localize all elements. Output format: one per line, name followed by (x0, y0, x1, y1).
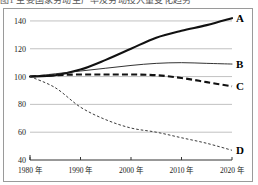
chart-plot-area: 406080100120140 1980 年1990 年2000 年2010 年… (0, 0, 258, 185)
series-label-d: D (236, 144, 244, 156)
series-label-c: C (236, 80, 244, 92)
ytick-label-60: 60 (18, 128, 26, 137)
ytick-label-40: 40 (18, 156, 26, 165)
ytick-label-100: 100 (14, 73, 26, 82)
series-line-d (30, 77, 232, 151)
xtick-label-2010: 2010 年 (170, 165, 195, 175)
xtick-label-2020: 2020 年 (220, 165, 245, 175)
y-axis-tick-labels: 406080100120140 (14, 17, 26, 165)
series-label-a: A (236, 12, 244, 24)
ytick-label-140: 140 (14, 17, 26, 26)
line-chart-svg: 406080100120140 1980 年1990 年2000 年2010 年… (0, 0, 258, 185)
gridlines-group (30, 21, 232, 132)
xtick-label-1990: 1990 年 (69, 165, 94, 175)
series-label-b: B (236, 58, 244, 70)
ytick-label-80: 80 (18, 100, 26, 109)
series-line-a (30, 18, 232, 76)
xtick-label-2000: 2000 年 (119, 165, 144, 175)
data-series-group (30, 18, 232, 150)
ytick-label-120: 120 (14, 45, 26, 54)
xtick-label-1980: 1980 年 (18, 165, 43, 175)
x-axis-tick-labels: 1980 年1990 年2000 年2010 年2020 年 (18, 165, 245, 175)
series-endpoint-labels: ABCD (236, 12, 244, 156)
figure-container: 图1 主要国家劳动生产率及劳动投入量变化趋势 406080100120140 1… (0, 0, 258, 185)
series-line-c (30, 74, 232, 86)
